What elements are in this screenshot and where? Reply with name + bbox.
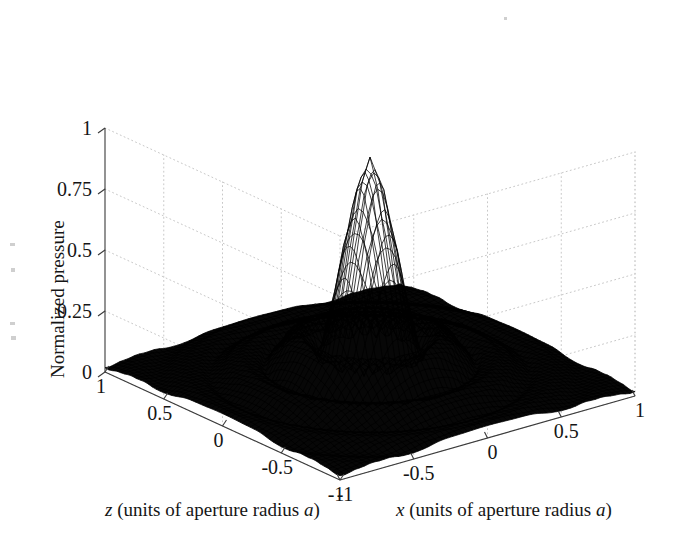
surface-plot: 10.750.50.25010.50-0.5-1-1-0.500.51 <box>0 0 693 554</box>
z-axis-title-unit: a <box>304 499 314 520</box>
svg-text:0.5: 0.5 <box>554 420 579 442</box>
svg-text:1: 1 <box>96 375 106 397</box>
y-axis-title: Normalized pressure <box>47 220 69 378</box>
svg-text:0: 0 <box>82 361 92 383</box>
svg-text:-0.5: -0.5 <box>261 456 293 478</box>
z-axis-title: z (units of aperture radius a) <box>105 499 320 521</box>
svg-text:1: 1 <box>82 117 92 139</box>
x-axis-title-close: ) <box>605 499 611 520</box>
figure-canvas: 10.750.50.25010.50-0.5-1-1-0.500.51 Norm… <box>0 0 693 554</box>
svg-text:0.5: 0.5 <box>147 402 172 424</box>
x-axis-title: x (units of aperture radius a) <box>396 499 612 521</box>
svg-text:0.5: 0.5 <box>67 239 92 261</box>
svg-text:-1: -1 <box>337 483 354 505</box>
z-axis-title-close: ) <box>313 499 319 520</box>
svg-text:0: 0 <box>488 441 498 463</box>
svg-text:0: 0 <box>214 429 224 451</box>
svg-text:0.75: 0.75 <box>57 178 92 200</box>
svg-text:-0.5: -0.5 <box>403 462 435 484</box>
x-axis-title-mid: (units of aperture radius <box>404 499 596 520</box>
svg-text:1: 1 <box>635 399 645 421</box>
z-axis-title-mid: (units of aperture radius <box>112 499 304 520</box>
